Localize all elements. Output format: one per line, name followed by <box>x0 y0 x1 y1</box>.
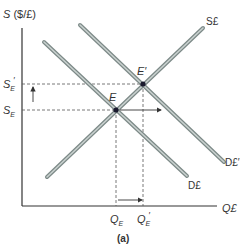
supply-curve-label: S£ <box>206 16 219 27</box>
y-tick-rate: SE <box>3 104 15 118</box>
equilibrium-point <box>113 107 118 112</box>
new-equilibrium-label: E′ <box>137 65 147 77</box>
x-tick-new-quantity: QE′ <box>137 210 151 227</box>
x-axis-label: Q£ <box>222 202 238 214</box>
y-axis-label: SS ($/£) ($/£) <box>3 8 36 20</box>
new-equilibrium-point <box>140 81 145 86</box>
supply-curve <box>47 28 203 177</box>
exchange-rate-diagram: E E′ SS ($/£) ($/£) S£ D£ D£′ SE′ SE QE … <box>0 0 248 247</box>
demand-curve-label: D£ <box>188 180 201 191</box>
y-tick-new-rate: SE′ <box>3 75 15 92</box>
x-tick-quantity: QE <box>110 213 124 227</box>
equilibrium-label: E <box>109 91 117 103</box>
figure-caption: (a) <box>117 233 129 244</box>
demand-shifted-curve-label: D£′ <box>225 157 240 168</box>
